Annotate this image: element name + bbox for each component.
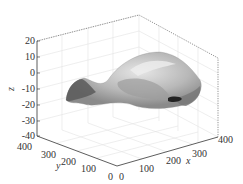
svg-text:0: 0 [30, 67, 35, 78]
svg-text:100: 100 [81, 163, 96, 174]
z-tick-labels: 20 10 0 -10 -20 -30 -40 [22, 35, 35, 141]
svg-text:-10: -10 [22, 83, 35, 94]
svg-text:200: 200 [61, 156, 76, 167]
svg-text:100: 100 [139, 163, 154, 174]
y-axis-label: y [55, 160, 61, 171]
svg-text:400: 400 [218, 134, 233, 145]
svg-text:-40: -40 [22, 130, 35, 141]
svg-text:-20: -20 [22, 99, 35, 110]
svg-text:400: 400 [17, 141, 32, 152]
svg-text:20: 20 [25, 35, 35, 46]
x-axis-label: x [185, 155, 191, 166]
svg-text:300: 300 [192, 148, 207, 159]
z-axis-label: z [5, 87, 16, 92]
svg-text:200: 200 [166, 155, 181, 166]
x-tick-labels: 0 100 200 300 400 [119, 134, 233, 182]
y-tick-labels: 400 300 200 100 0 [17, 141, 113, 182]
surface-plot: 20 10 0 -10 -20 -30 -40 z 400 300 200 10… [0, 0, 243, 184]
svg-text:0: 0 [108, 171, 113, 182]
svg-text:0: 0 [119, 171, 124, 182]
svg-text:10: 10 [25, 51, 35, 62]
svg-text:-30: -30 [22, 115, 35, 126]
svg-text:300: 300 [41, 149, 56, 160]
